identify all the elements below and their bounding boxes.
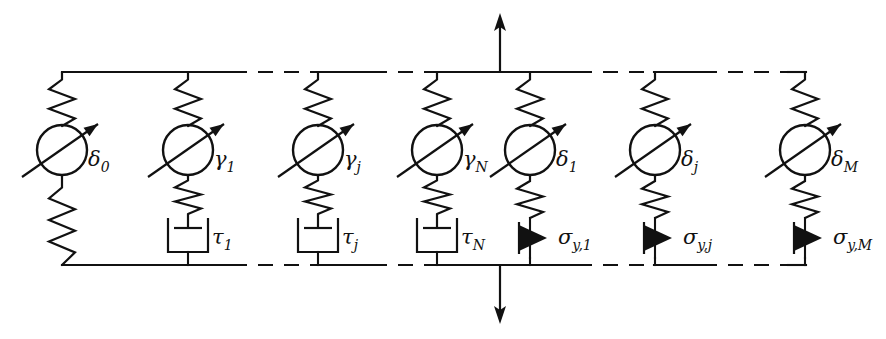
- branch-delta-j-lower-spring-icon: [642, 175, 668, 218]
- rheological-diagram: δ0γ1γjγNδ1δjδMτ1τjτNσy,1σy,jσy,M: [0, 0, 886, 339]
- branch-delta-M-upper-spring-icon: [792, 72, 818, 126]
- branch-delta-j: [615, 72, 691, 265]
- branch-delta-0-variable-arrow-head: [84, 124, 98, 136]
- tension-arrow-down: [494, 265, 506, 324]
- label-secondary-3: σy,1: [558, 225, 592, 253]
- tension-arrow-up: [494, 13, 506, 72]
- branch-delta-1-variable-arrow-head: [552, 124, 566, 136]
- branch-gamma-N-variable-arrow-head: [459, 124, 473, 136]
- label-branch-delta-j-element: δj: [681, 147, 699, 175]
- label-branch-gamma-N-element: γN: [463, 147, 489, 175]
- label-layer: δ0γ1γjγNδ1δjδMτ1τjτNσy,1σy,jσy,M: [88, 147, 873, 253]
- branch-gamma-1-variable-arrow-head: [210, 124, 224, 136]
- branch-gamma-1-lower-spring-icon: [175, 175, 201, 214]
- label-secondary-1: τj: [342, 225, 359, 253]
- branch-delta-0-lower-spring-icon: [49, 175, 75, 265]
- branch-delta-1-upper-spring-icon: [517, 72, 543, 126]
- branch-gamma-N-upper-spring-icon: [424, 72, 450, 126]
- label-branch-delta-M-element: δM: [831, 147, 859, 175]
- branch-gamma-N-lower-spring-icon: [424, 175, 450, 214]
- label-branch-gamma-1-element: γ1: [214, 147, 235, 175]
- branch-gamma-1-upper-spring-icon: [175, 72, 201, 126]
- branch-delta-j-variable-arrow-head: [677, 124, 691, 136]
- branch-delta-1: [490, 72, 566, 265]
- branch-delta-M: [765, 72, 841, 265]
- branch-delta-0-upper-spring-icon: [49, 72, 75, 126]
- label-branch-delta-1-element: δ1: [556, 147, 578, 175]
- label-secondary-4: σy,j: [683, 225, 713, 253]
- branch-delta-1-friction-triangle-icon: [519, 225, 547, 251]
- branch-delta-1-lower-spring-icon: [517, 175, 543, 218]
- branch-delta-M-variable-arrow-head: [827, 124, 841, 136]
- label-secondary-5: σy,M: [833, 225, 873, 253]
- label-branch-gamma-j-element: γj: [344, 147, 362, 175]
- branch-delta-j-upper-spring-icon: [642, 72, 668, 126]
- branch-gamma-j-variable-arrow-head: [340, 124, 354, 136]
- branch-gamma-j-lower-spring-icon: [305, 175, 331, 214]
- label-branch-delta-0-element: δ0: [88, 147, 110, 175]
- branch-delta-j-friction-triangle-icon: [644, 225, 672, 251]
- label-secondary-2: τN: [461, 225, 486, 253]
- label-secondary-0: τ1: [212, 225, 233, 253]
- branch-delta-0: [22, 72, 98, 265]
- branch-gamma-j-upper-spring-icon: [305, 72, 331, 126]
- branch-layer: [22, 72, 841, 265]
- branch-delta-M-lower-spring-icon: [792, 175, 818, 218]
- network-svg: δ0γ1γjγNδ1δjδMτ1τjτNσy,1σy,jσy,M: [0, 0, 886, 339]
- branch-delta-M-friction-triangle-icon: [794, 225, 822, 251]
